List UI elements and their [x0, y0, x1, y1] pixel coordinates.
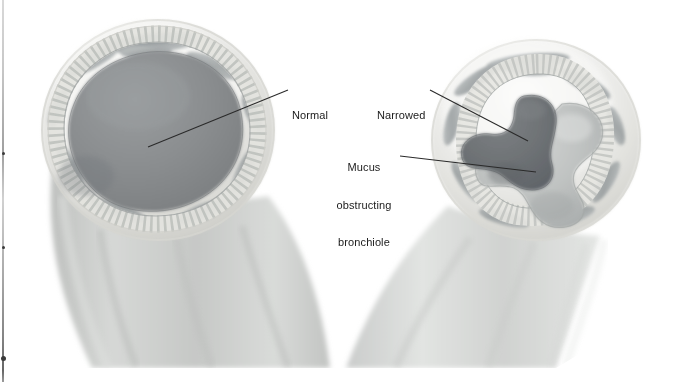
scan-edge-artifact: [2, 0, 4, 382]
label-normal-line-1: Normal: [292, 109, 328, 122]
label-mucus-line-2: obstructing: [330, 199, 398, 212]
normal-bronchiole-cross-section: [42, 20, 274, 240]
label-mucus-line-1: Mucus: [330, 161, 398, 174]
label-narrowed-line-1: Narrowed: [377, 109, 426, 122]
scan-fleck: [1, 356, 6, 361]
illustration-canvas: Normal Narrowed Mucus obstructing bronch…: [0, 0, 684, 382]
scan-fleck: [2, 152, 5, 155]
label-normal: Normal: [292, 84, 328, 147]
narrowed-bronchiole-cross-section: [432, 38, 640, 240]
label-mucus-line-3: bronchiole: [330, 236, 398, 249]
scan-fleck: [2, 246, 5, 249]
label-mucus-obstructing-bronchiole: Mucus obstructing bronchiole: [330, 136, 398, 274]
